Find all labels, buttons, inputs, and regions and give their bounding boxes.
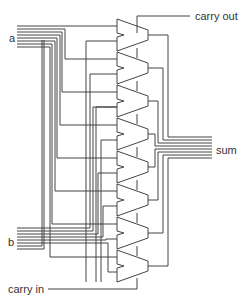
adder-2 xyxy=(117,184,148,216)
b-bus-wires xyxy=(17,40,117,272)
full-adders xyxy=(117,19,148,282)
adder-5 xyxy=(117,85,148,117)
sum-bus-wires xyxy=(148,35,212,266)
adder-0 xyxy=(117,250,148,282)
carry-out-wire xyxy=(137,16,190,33)
a-feed-wires xyxy=(86,41,117,282)
adder-3 xyxy=(117,151,148,183)
adder-1 xyxy=(117,217,148,249)
adder-7 xyxy=(117,19,148,51)
adder-diagram xyxy=(0,0,248,301)
a-bus-wires xyxy=(17,26,117,257)
adder-6 xyxy=(117,52,148,84)
adder-4 xyxy=(117,118,148,150)
